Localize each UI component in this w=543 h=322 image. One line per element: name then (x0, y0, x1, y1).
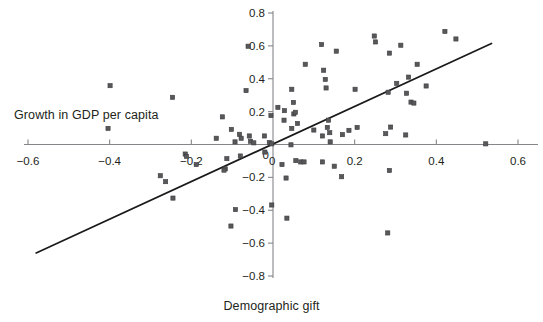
data-point (319, 42, 323, 46)
data-point (340, 133, 344, 137)
data-point (384, 132, 388, 136)
data-point (171, 196, 175, 200)
x-tick-label: 0.4 (428, 155, 445, 167)
data-point (233, 140, 237, 144)
data-point (270, 142, 274, 146)
data-point (262, 134, 266, 138)
data-point (353, 87, 357, 91)
data-point (332, 164, 336, 168)
y-axis-title-text: Growth in GDP per capita (14, 108, 159, 122)
data-point (372, 34, 376, 38)
data-point (443, 29, 447, 33)
x-tick-label: −0.6 (17, 155, 40, 167)
data-point (229, 127, 233, 131)
data-point (454, 37, 458, 41)
data-point (282, 118, 286, 122)
data-point (320, 160, 324, 164)
data-point (220, 115, 224, 119)
data-point (252, 141, 256, 145)
data-point (324, 86, 328, 90)
data-point (323, 77, 327, 81)
data-point (326, 118, 330, 122)
data-point (347, 128, 351, 132)
data-point (302, 160, 306, 164)
data-point (237, 132, 241, 136)
data-point (334, 49, 338, 53)
data-point (395, 81, 399, 85)
data-point (225, 157, 229, 161)
data-point (106, 126, 110, 130)
scatter-plot-svg: −0.6−0.4−0.200.20.40.6−0.8−0.6−0.4−0.200… (0, 0, 543, 322)
data-point (290, 87, 294, 91)
data-point (340, 175, 344, 179)
data-point (320, 134, 324, 138)
data-point (303, 62, 307, 66)
data-point (399, 43, 403, 47)
data-point (280, 162, 284, 166)
y-tick-label: 0.2 (249, 106, 265, 118)
data-point (386, 231, 390, 235)
data-point (184, 154, 188, 158)
data-point (328, 131, 332, 135)
y-axis-title: Growth in GDP per capita (14, 105, 189, 123)
axes-group (24, 11, 538, 278)
data-point (387, 168, 391, 172)
data-point (484, 142, 488, 146)
data-point (424, 84, 428, 88)
data-point (269, 113, 273, 117)
y-tick-label: −0.6 (242, 237, 265, 249)
data-point (239, 136, 243, 140)
data-point (246, 44, 250, 48)
x-axis-title-text: Demographic gift (223, 299, 319, 313)
data-point (387, 51, 391, 55)
data-point (404, 91, 408, 95)
y-tick-label: 0.4 (249, 73, 266, 85)
data-point (373, 40, 377, 44)
x-tick-label: −0.4 (98, 155, 121, 167)
data-point (355, 125, 359, 129)
data-point (404, 133, 408, 137)
data-point (291, 100, 295, 104)
data-point (294, 159, 298, 163)
data-point (158, 174, 162, 178)
y-tick-label: 0.6 (249, 40, 265, 52)
data-point (289, 143, 293, 147)
y-tick-label: 0.8 (249, 7, 265, 19)
data-point (389, 125, 393, 129)
data-point (164, 180, 168, 184)
data-point (284, 176, 288, 180)
x-tick-label: 0 (269, 155, 275, 167)
data-point (276, 105, 280, 109)
data-point (263, 150, 267, 154)
data-point (233, 207, 237, 211)
data-point (170, 95, 174, 99)
data-point (312, 128, 316, 132)
data-point (412, 101, 416, 105)
data-point (238, 154, 242, 158)
data-point (325, 125, 329, 129)
scatter-chart-figure: −0.6−0.4−0.200.20.40.6−0.8−0.6−0.4−0.200… (0, 0, 543, 322)
data-point (295, 121, 299, 125)
data-point (194, 162, 198, 166)
x-tick-label: 0.2 (347, 155, 363, 167)
data-point (415, 62, 419, 66)
data-point (214, 136, 218, 140)
data-point (285, 216, 289, 220)
data-point (282, 109, 286, 113)
data-point (322, 68, 326, 72)
data-point (222, 168, 226, 172)
x-tick-label: 0.6 (510, 155, 526, 167)
data-point (290, 126, 294, 130)
data-point (386, 90, 390, 94)
data-point (229, 224, 233, 228)
x-axis-title: Demographic gift (0, 296, 543, 314)
data-point (406, 75, 410, 79)
data-point (244, 88, 248, 92)
data-point (328, 140, 332, 144)
y-tick-label: −0.2 (242, 171, 265, 183)
data-point (293, 110, 297, 114)
y-tick-label: −0.8 (242, 270, 265, 282)
data-point (270, 203, 274, 207)
y-tick-label: −0.4 (242, 204, 265, 216)
data-point (247, 134, 251, 138)
